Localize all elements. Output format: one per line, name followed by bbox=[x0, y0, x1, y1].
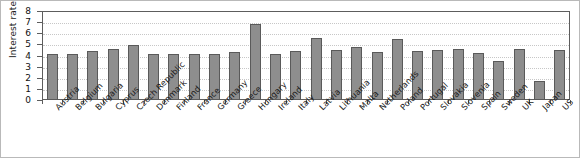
bar-cell bbox=[550, 11, 570, 100]
chart-figure: Interest rate (%) 012345678 AustriaBelgi… bbox=[0, 0, 580, 158]
bar bbox=[47, 54, 58, 100]
bar-cell bbox=[529, 11, 549, 100]
y-axis-tick-label: 5 bbox=[1, 40, 31, 48]
bar-cell bbox=[367, 11, 387, 100]
bar-cell bbox=[326, 11, 346, 100]
x-axis-tick-mark bbox=[42, 100, 43, 104]
y-axis-tick-label: 6 bbox=[1, 29, 31, 37]
bar bbox=[311, 38, 322, 100]
y-axis-tick-label: 8 bbox=[1, 7, 31, 15]
y-axis-tick-label: 4 bbox=[1, 52, 31, 60]
bar-cell bbox=[42, 11, 62, 100]
y-axis-tick-label: 3 bbox=[1, 63, 31, 71]
y-axis-tick-label: 0 bbox=[1, 96, 31, 104]
y-axis-tick-label: 1 bbox=[1, 85, 31, 93]
bar bbox=[534, 81, 545, 100]
bar-cell bbox=[306, 11, 326, 100]
y-axis-tick-label: 2 bbox=[1, 74, 31, 82]
y-axis-tick-label: 7 bbox=[1, 18, 31, 26]
bar-cell bbox=[489, 11, 509, 100]
